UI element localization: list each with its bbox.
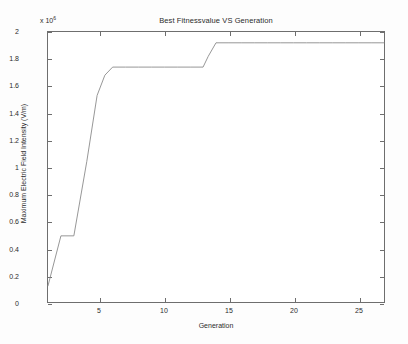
figure-canvas: Best Fitnessvalue VS Generation x 106 Ge… <box>0 0 408 344</box>
y-tick-mark <box>48 304 52 305</box>
x-axis-label: Generation <box>47 322 385 329</box>
y-tick-label: 0.6 <box>0 218 19 225</box>
y-tick-label: 0.8 <box>0 191 19 198</box>
data-line-svg <box>48 32 384 302</box>
y-tick-label: 2 <box>0 28 19 35</box>
y-exponent-power: 6 <box>53 15 56 21</box>
x-tick-label: 5 <box>84 307 114 314</box>
y-tick-label: 1.6 <box>0 82 19 89</box>
y-tick-label: 1.8 <box>0 55 19 62</box>
y-tick-label: 0 <box>0 300 19 307</box>
plot-area <box>47 31 385 303</box>
x-tick-label: 15 <box>214 307 244 314</box>
chart-title: Best Fitnessvalue VS Generation <box>47 16 385 25</box>
y-exponent-base: x 10 <box>40 17 53 24</box>
y-tick-label: 0.2 <box>0 272 19 279</box>
series-line-best-fitness <box>48 43 384 286</box>
x-tick-label: 10 <box>149 307 179 314</box>
y-tick-label: 1 <box>0 164 19 171</box>
x-tick-label: 20 <box>279 307 309 314</box>
y-tick-label: 1.2 <box>0 136 19 143</box>
y-tick-label: 0.4 <box>0 245 19 252</box>
y-axis-label: Maximum Electric Field Intensity (V/m) <box>20 59 27 269</box>
y-tick-mark <box>380 304 384 305</box>
y-axis-exponent-label: x 106 <box>40 15 56 24</box>
x-tick-label: 25 <box>344 307 374 314</box>
y-tick-label: 1.4 <box>0 109 19 116</box>
